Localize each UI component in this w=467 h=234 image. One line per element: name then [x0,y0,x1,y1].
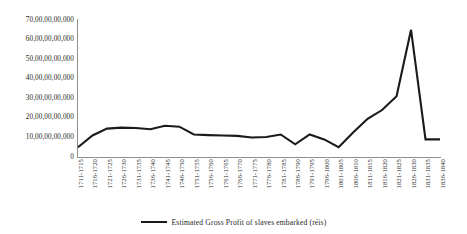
x-axis-tick-label: 1811-1815 [364,159,371,188]
x-axis-tick-label: 1711-1715 [75,159,82,188]
legend-line-swatch [141,221,167,224]
x-axis-tick-label: 1716-1720 [89,159,96,188]
x-axis-tick-label: 1766-1770 [234,159,241,188]
x-axis-tick-label: 1776-1780 [263,159,270,188]
x-axis-tick-label: 1781-1785 [278,159,285,188]
x-axis-tick-label: 1726-1730 [118,159,125,188]
x-axis-tick-label: 1731-1735 [133,159,140,188]
x-axis-tick-label: 1821-1825 [393,159,400,188]
x-axis-tick-label: 1786-1790 [292,159,299,188]
legend-entry-label: Estimated Gross Profit of slaves embarke… [172,218,327,227]
x-axis-tick-label: 1791-1795 [306,159,313,188]
x-axis-tick-label: 1746-1750 [176,159,183,188]
x-axis-tick-label: 1751-1755 [191,159,198,188]
x-axis-tick-label: 1796-1800 [321,159,328,188]
x-axis-tick-labels: 1711-17151716-17201721-17251726-17301731… [0,159,467,211]
x-axis-tick-label: 1831-1835 [422,159,429,188]
x-axis-tick-label: 1756-1760 [205,159,212,188]
x-axis-tick-label: 1836-1840 [437,159,444,188]
chart-legend: Estimated Gross Profit of slaves embarke… [0,213,467,231]
x-axis-tick-label: 1771-1775 [249,159,256,188]
chart-container: 70,00,00,00,00060,00,00,00,00050,00,00,0… [0,0,467,234]
x-axis-tick-label: 1816-1820 [379,159,386,188]
x-axis-tick-label: 1736-1740 [147,159,154,188]
x-axis-tick-label: 1826-1830 [408,159,415,188]
x-axis-tick-label: 1761-1765 [220,159,227,188]
x-axis-tick-label: 1801-1805 [335,159,342,188]
x-axis-tick-label: 1721-1725 [104,159,111,188]
x-axis-tick-label: 1741-1745 [162,159,169,188]
x-axis-tick-label: 1806-1810 [350,159,357,188]
